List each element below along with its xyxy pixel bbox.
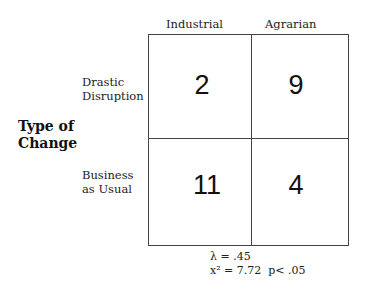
cell-drastic-industrial: 2: [152, 70, 252, 101]
column-divider: [251, 34, 252, 246]
column-header-agrarian: Agrarian: [265, 17, 316, 31]
row-label-line-2: Disruption: [82, 89, 144, 103]
row-axis-title: Type of Change: [18, 118, 77, 152]
table-border: [148, 34, 349, 246]
row-divider: [148, 138, 349, 139]
column-header-industrial: Industrial: [166, 17, 223, 31]
row-axis-title-line-2: Change: [18, 135, 77, 152]
cell-drastic-agrarian: 9: [246, 70, 346, 101]
row-axis-title-line-1: Type of: [18, 118, 77, 135]
row-label-line-1: Drastic: [82, 75, 144, 89]
lambda-statistic: λ = .45: [210, 250, 251, 264]
chi-square-statistic: x² = 7.72 p< .05: [210, 264, 306, 278]
row-label-drastic-disruption: Drastic Disruption: [82, 75, 144, 103]
row-label-business-as-usual: Business as Usual: [82, 168, 133, 196]
row-label-line-1: Business: [82, 168, 133, 182]
cell-business-agrarian: 4: [246, 170, 346, 201]
cell-business-industrial: 11: [157, 170, 257, 201]
row-label-line-2: as Usual: [82, 182, 133, 196]
